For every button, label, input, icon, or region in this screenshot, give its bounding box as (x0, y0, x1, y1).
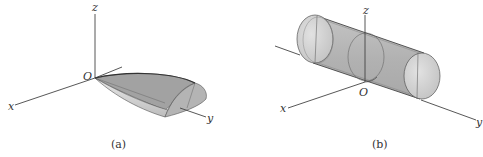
diagram-canvas: z O x y (a) (0, 0, 483, 157)
figure-b: z O x y (b) (275, 4, 483, 151)
wedge-solid (95, 73, 206, 117)
cylinder-solid (297, 15, 440, 99)
x-label-a: x (8, 100, 15, 113)
x-axis-back-b (275, 46, 300, 55)
z-label-a: z (91, 1, 98, 14)
figure-a: z O x y (a) (8, 1, 214, 151)
y-axis-b (421, 100, 476, 120)
y-label-a: y (206, 112, 214, 125)
y-label-b: y (475, 116, 483, 129)
y-axis-a (180, 108, 206, 117)
x-axis-b (288, 82, 365, 108)
z-label-b: z (362, 4, 369, 17)
caption-a: (a) (111, 138, 126, 151)
origin-label-a: O (83, 70, 92, 83)
x-label-b: x (280, 102, 287, 115)
caption-b: (b) (372, 138, 388, 151)
origin-label-b: O (359, 86, 368, 99)
